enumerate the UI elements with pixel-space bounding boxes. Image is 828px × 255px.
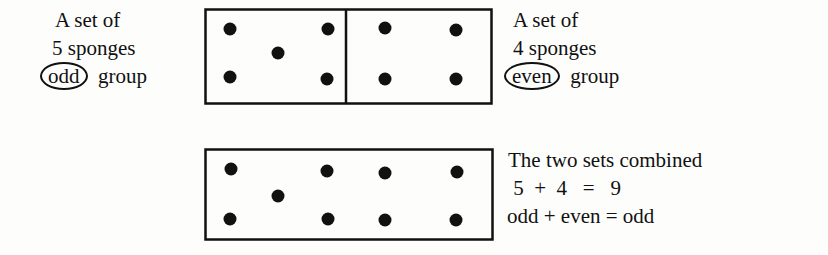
bottom-box-border — [206, 150, 493, 240]
sponge-diagram — [0, 0, 828, 255]
top-box — [206, 10, 492, 104]
four-sponge-dots — [379, 22, 463, 86]
top-box-border — [206, 10, 492, 104]
five-sponge-dots — [224, 23, 335, 86]
nine-sponge-dots — [224, 163, 464, 227]
bottom-box — [206, 150, 493, 240]
